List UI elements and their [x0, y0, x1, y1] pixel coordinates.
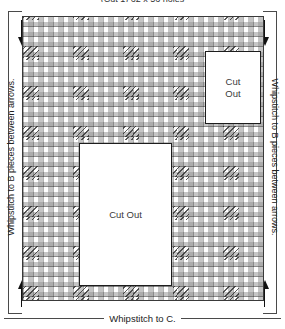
cutout-large: Cut Out: [79, 143, 172, 286]
left-caption: Whipstitch to B pieces between arrows.: [6, 28, 16, 286]
bottom-caption-rule-right: [181, 318, 281, 319]
cutout-small: Cut Out: [205, 51, 261, 124]
arrow-bottom-right-shaft: [264, 288, 265, 307]
bottom-caption-rule-left: [4, 318, 104, 319]
canvas-panel: Cut Out Cut Out: [22, 16, 264, 301]
plastic-canvas-pattern-diagram: (Cut 1) 62 x 56 holes Cut Out Cut Out Wh…: [0, 0, 285, 329]
cutout-large-label: Cut Out: [109, 209, 142, 221]
bottom-caption: Whipstitch to C.: [4, 313, 281, 324]
top-caption: (Cut 1) 62 x 56 holes: [0, 0, 285, 2]
right-caption: Whipstitch to B pieces between arrows.: [270, 28, 280, 286]
bottom-caption-label: Whipstitch to C.: [109, 313, 176, 324]
cutout-small-label: Cut Out: [225, 76, 240, 100]
